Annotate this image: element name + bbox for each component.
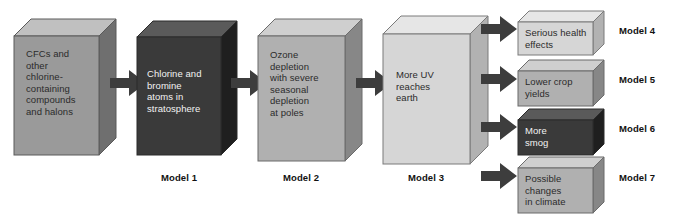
arrow-uv-to-crops [481, 66, 517, 92]
box-front-face [383, 34, 470, 164]
box-front-face [518, 71, 593, 106]
arrow-uv-to-smog [481, 114, 517, 140]
arrow-uv-to-health [481, 16, 517, 42]
process-box-ozone-depletion: Ozone depletion with severe seasonal dep… [258, 19, 362, 161]
box-top-face [518, 157, 604, 168]
box-top-face [14, 19, 116, 36]
process-box-more-uv: More UV reaches earth [383, 16, 488, 164]
box-front-face [14, 36, 99, 155]
outcome-box-more-smog: More smog [518, 109, 604, 155]
box-front-face [518, 22, 593, 55]
process-box-cfcs: CFCs and other chlorine- containing comp… [14, 19, 116, 155]
model-label-1: Model 1 [161, 172, 197, 183]
box-front-face [258, 36, 345, 161]
process-box-chlorine-bromine: Chlorine and bromine atoms in stratosphe… [137, 21, 237, 155]
model-label-3: Model 3 [408, 172, 444, 183]
box-top-face [258, 19, 362, 36]
model-label-4: Model 4 [619, 25, 655, 36]
box-top-face [518, 11, 604, 22]
box-top-face [137, 21, 237, 37]
outcome-box-possible-climate-changes: Possible changes in climate [518, 157, 604, 213]
model-label-5: Model 5 [619, 74, 655, 85]
model-label-2: Model 2 [283, 172, 319, 183]
box-front-face [137, 37, 221, 155]
box-top-face [518, 60, 604, 71]
box-top-face [518, 109, 604, 120]
diagram-canvas: CFCs and other chlorine- containing comp… [0, 0, 674, 217]
box-front-face [518, 168, 593, 213]
model-label-6: Model 6 [619, 123, 655, 134]
box-front-face [518, 120, 593, 155]
model-label-7: Model 7 [619, 172, 655, 183]
outcome-box-serious-health-effects: Serious health effects [518, 11, 604, 55]
arrow-uv-to-climate [481, 163, 517, 189]
outcome-box-lower-crop-yields: Lower crop yields [518, 60, 604, 106]
